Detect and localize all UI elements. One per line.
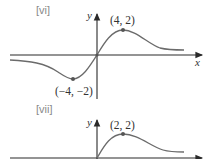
curve-vii (97, 134, 184, 158)
y-axis-label-vii: y (86, 116, 92, 128)
figure-vi: [vi] x y (4, 2) (−4, −2) (10, 4, 202, 99)
max-label-vi: (4, 2) (110, 14, 135, 27)
graphs-canvas: [vi] x y (4, 2) (−4, −2) [vii] y (2, 2) (0, 0, 208, 159)
figure-vii: [vii] y (2, 2) (10, 103, 202, 159)
max-point-vi (121, 28, 125, 32)
min-point-vi (71, 77, 75, 81)
max-label-vii: (2, 2) (110, 119, 135, 132)
min-label-vi: (−4, −2) (55, 85, 93, 98)
figure-label-vi: [vi] (36, 4, 50, 16)
max-point-vii (121, 132, 125, 136)
figure-label-vii: [vii] (36, 103, 53, 115)
origin-point-vi (95, 53, 98, 56)
x-axis-label: x (194, 56, 200, 68)
y-axis-label: y (86, 9, 92, 21)
